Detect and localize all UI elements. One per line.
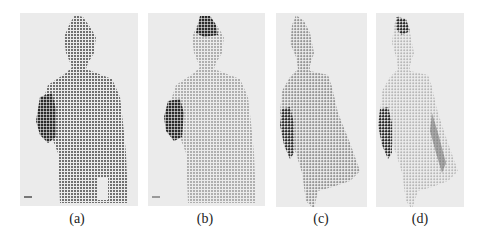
point-cloud-front-dark [20, 13, 138, 206]
caption-d: (d) [400, 211, 440, 227]
figure-panel-a [20, 13, 138, 206]
figure-panel-b [148, 13, 265, 206]
caption-b: (b) [185, 211, 225, 227]
point-cloud-rotated-3d [276, 13, 367, 207]
figure-panel-d [376, 13, 464, 207]
caption-a: (a) [57, 211, 97, 227]
point-cloud-rotated-3d-light [376, 13, 464, 207]
point-cloud-front-light [148, 13, 265, 206]
figure-panel-c [276, 13, 367, 207]
caption-c: (c) [301, 211, 341, 227]
